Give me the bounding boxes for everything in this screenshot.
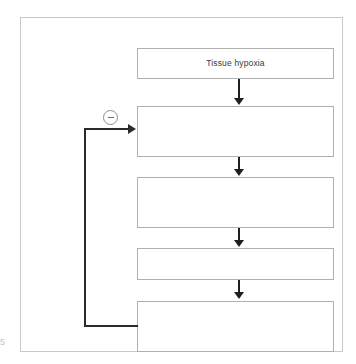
process-box-2: [137, 106, 334, 157]
diagram-screenshot: Tissue hypoxia 5: [0, 0, 356, 364]
process-box-1: Tissue hypoxia: [137, 48, 334, 79]
circled-minus-icon: [103, 110, 118, 125]
process-box-4: [137, 248, 334, 280]
feedback-loop-top-segment: [84, 128, 130, 130]
figure-frame: Tissue hypoxia: [20, 17, 343, 352]
feedback-loop-vertical-segment: [84, 128, 86, 327]
connector-arrow-1-head: [234, 98, 244, 105]
margin-mark: 5: [0, 338, 7, 347]
feedback-loop-bottom-segment: [84, 325, 138, 327]
feedback-loop-arrow-head: [128, 124, 136, 134]
process-box-5: [137, 301, 334, 352]
connector-arrow-1: [238, 79, 240, 100]
minus-bar: [108, 117, 114, 118]
connector-arrow-2-head: [234, 169, 244, 176]
connector-arrow-4-head: [234, 292, 244, 299]
process-box-3: [137, 177, 334, 228]
process-box-1-label: Tissue hypoxia: [206, 58, 264, 69]
connector-arrow-3-head: [234, 240, 244, 247]
